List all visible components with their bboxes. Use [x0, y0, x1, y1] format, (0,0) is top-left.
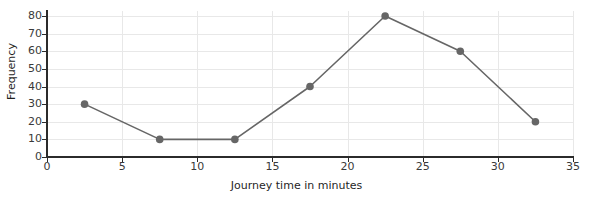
frequency-polygon-chart: 80706050403020100 05101520253035 Frequen… [0, 0, 593, 207]
data-point-marker [81, 100, 89, 108]
data-point-marker [231, 136, 239, 144]
data-point-marker [456, 47, 464, 55]
y-tick-mark [42, 122, 47, 123]
y-tick-mark [42, 87, 47, 88]
y-tick-mark [42, 69, 47, 70]
y-tick-mark [42, 34, 47, 35]
data-point-marker [381, 12, 389, 20]
y-tick-mark [42, 51, 47, 52]
series-line [85, 16, 536, 139]
data-point-marker [532, 118, 540, 126]
y-tick-mark [42, 157, 47, 158]
data-point-marker [156, 136, 164, 144]
y-tick-mark [42, 16, 47, 17]
series-layer [0, 0, 593, 207]
y-tick-mark [42, 104, 47, 105]
y-tick-mark [42, 139, 47, 140]
data-point-marker [306, 83, 314, 91]
